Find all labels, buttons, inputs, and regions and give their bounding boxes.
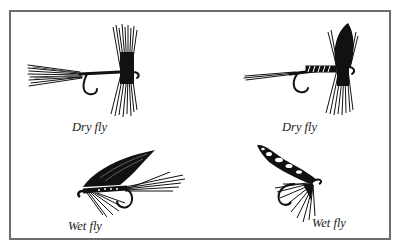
wet-fly-illustration — [75, 145, 190, 220]
wet-fly-illustration — [255, 140, 355, 225]
wet-fly-label-1: Wet fly — [68, 219, 102, 234]
dry-fly-illustration — [240, 20, 365, 115]
dry-fly-label-1: Dry fly — [72, 120, 107, 135]
dry-fly-label-2: Dry fly — [282, 120, 317, 135]
wet-fly-label-2: Wet fly — [312, 216, 346, 231]
dry-fly-illustration — [25, 22, 150, 117]
